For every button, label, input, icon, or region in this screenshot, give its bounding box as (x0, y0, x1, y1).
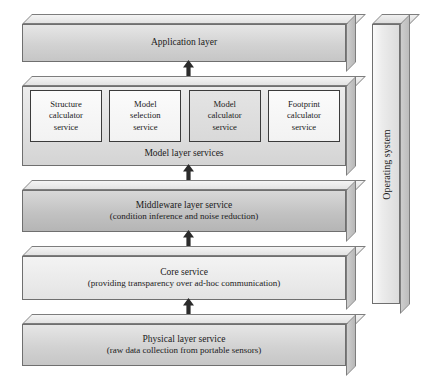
service-box-line-2: calculator (287, 110, 321, 121)
core-title: Core service (160, 267, 208, 279)
application-side-face (346, 14, 356, 72)
operating-system-bar: Operating system (372, 14, 410, 304)
physical-side-face (346, 314, 356, 376)
core-top-face (22, 246, 366, 256)
layer-model: Model layer services Structure calculato… (22, 76, 356, 166)
core-front-face: Core service (providing transparency ove… (22, 256, 346, 300)
middleware-top-face (22, 180, 366, 190)
middleware-title: Middleware layer service (136, 200, 233, 212)
layer-middleware: Middleware layer service (condition infe… (22, 180, 356, 232)
layer-core: Core service (providing transparency ove… (22, 246, 356, 300)
physical-top-face (22, 314, 366, 324)
application-front-face: Application layer (22, 24, 346, 62)
service-box-line-1: Structure (50, 99, 82, 110)
application-layer-title: Application layer (151, 37, 217, 49)
model-service-box-row: Structure calculator service Model selec… (30, 90, 340, 142)
os-front-face: Operating system (372, 24, 400, 304)
service-box-line-3: service (292, 122, 316, 133)
service-box-line-3: service (212, 122, 236, 133)
model-layer-caption: Model layer services (23, 148, 345, 160)
service-box-line-1: Model (213, 99, 235, 110)
layer-physical: Physical layer service (raw data collect… (22, 314, 356, 366)
service-box-model-calculator[interactable]: Model calculator service (189, 90, 261, 142)
layer-application: Application layer (22, 14, 356, 62)
service-box-line-3: service (54, 122, 78, 133)
operating-system-label: Operating system (381, 129, 392, 199)
service-box-model-selection[interactable]: Model selection service (109, 90, 181, 142)
core-side-face (346, 246, 356, 310)
service-box-footprint-calculator[interactable]: Footprint calculator service (268, 90, 340, 142)
os-side-face (400, 14, 410, 314)
architecture-diagram: Application layer Model layer services S… (0, 0, 430, 384)
service-box-line-2: selection (130, 110, 161, 121)
service-box-line-2: calculator (49, 110, 83, 121)
middleware-subtitle: (condition inference and noise reduction… (110, 211, 258, 222)
service-box-line-3: service (133, 122, 157, 133)
physical-title: Physical layer service (143, 334, 226, 346)
physical-front-face: Physical layer service (raw data collect… (22, 324, 346, 366)
application-top-face (22, 14, 366, 24)
physical-subtitle: (raw data collection from portable senso… (107, 345, 262, 356)
os-top-face (372, 14, 420, 24)
service-box-line-2: calculator (208, 110, 242, 121)
service-box-line-1: Model (134, 99, 156, 110)
service-box-structure-calculator[interactable]: Structure calculator service (30, 90, 102, 142)
middleware-front-face: Middleware layer service (condition infe… (22, 190, 346, 232)
model-side-face (346, 76, 356, 176)
core-subtitle: (providing transparency over ad-hoc comm… (88, 278, 280, 289)
service-box-line-1: Footprint (288, 99, 320, 110)
model-top-face (22, 76, 366, 86)
middleware-side-face (346, 180, 356, 242)
